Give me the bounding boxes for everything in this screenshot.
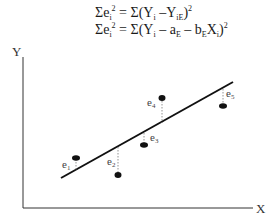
x-axis-label: X (256, 201, 266, 216)
data-point-1 (72, 155, 80, 161)
data-point-4 (159, 95, 166, 101)
residual-label-e3: e3 (150, 131, 159, 145)
regression-diagram: Y X e1 e2 e3 e4 e5 (0, 0, 274, 221)
residual-label-e1: e1 (62, 158, 71, 172)
data-point-5 (219, 103, 227, 109)
residual-label-e5: e5 (226, 87, 235, 101)
y-axis-label: Y (12, 44, 22, 59)
residual-label-e2: e2 (107, 155, 116, 169)
data-point-2 (115, 172, 122, 178)
residual-label-e4: e4 (147, 96, 156, 110)
data-point-3 (140, 142, 148, 148)
